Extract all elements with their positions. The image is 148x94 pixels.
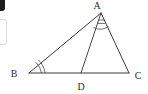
segment-ad: [81, 13, 101, 73]
geometry-figure: A B D C: [0, 0, 148, 94]
vertex-label-d: D: [77, 81, 84, 92]
triangle-diagram-svg: A B D C: [0, 0, 148, 94]
vertex-label-c: C: [135, 70, 142, 81]
segment-ab: [29, 13, 101, 73]
vertex-label-b: B: [11, 68, 18, 79]
vertex-label-a: A: [93, 0, 101, 11]
segment-ac: [101, 13, 129, 73]
